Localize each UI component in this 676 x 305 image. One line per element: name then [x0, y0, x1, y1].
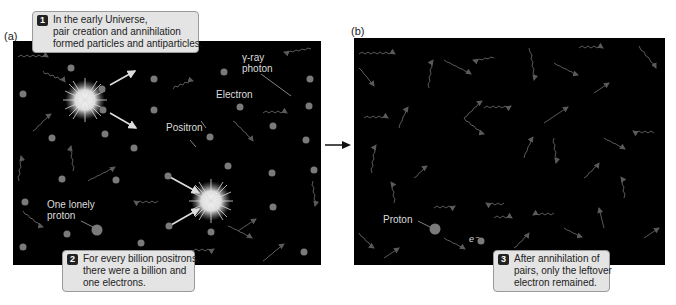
gamma-ray-label-line1: γ-ray	[242, 52, 273, 63]
gamma-ray-photons	[18, 48, 316, 261]
caption-1-line: formed particles and antiparticles.	[53, 38, 192, 50]
caption-3-line: After annihilation of	[514, 253, 603, 265]
label-leader-lines	[81, 74, 291, 227]
annihilation-burst-1	[63, 78, 107, 122]
caption-2-line: there were a billion and	[83, 265, 188, 277]
annihilation-burst-2	[189, 179, 233, 223]
caption-1: 1 In the early Universe, pair creation a…	[32, 11, 199, 53]
positron-label: Positron	[166, 122, 203, 133]
transition-arrow-icon	[325, 141, 351, 149]
panel-b-illustration	[354, 38, 665, 265]
particles	[20, 65, 318, 256]
gamma-ray-photon-label: γ-ray photon	[242, 52, 273, 74]
proton-particle	[430, 224, 441, 235]
panel-a-early-universe: γ-ray photon Electron Positron One lonel…	[13, 41, 321, 265]
lonely-proton	[92, 225, 103, 236]
lonely-proton-label: One lonely proton	[47, 199, 95, 221]
caption-3-line: electron remained.	[514, 277, 603, 289]
caption-1-line: pair creation and annihilation	[53, 26, 192, 38]
gamma-ray-photons	[359, 46, 659, 258]
caption-2: 2 For every billion positrons, there wer…	[62, 250, 195, 292]
gamma-ray-label-line2: photon	[242, 63, 273, 74]
step-number-3: 3	[498, 254, 509, 265]
panel-b-after-annihilation: Proton e⁻	[354, 38, 665, 265]
step-number-1: 1	[37, 15, 48, 26]
proton-label-line2: proton	[47, 210, 95, 221]
electron-label: Electron	[216, 89, 253, 100]
electron-symbol-label: e⁻	[469, 234, 479, 245]
step-number-2: 2	[67, 254, 78, 265]
particle-motion-arrows	[110, 71, 199, 225]
caption-3-line: pairs, only the leftover	[514, 265, 603, 277]
panel-a-illustration	[13, 41, 321, 265]
caption-2-line: one electrons.	[83, 277, 188, 289]
caption-3: 3 After annihilation of pairs, only the …	[493, 250, 610, 292]
caption-1-line: In the early Universe,	[53, 14, 192, 26]
caption-2-line: For every billion positrons,	[83, 253, 188, 265]
proton-label: Proton	[383, 214, 412, 225]
panel-b-label: (b)	[351, 25, 364, 37]
proton-label-line1: One lonely	[47, 199, 95, 210]
proton-leader-line	[418, 221, 430, 227]
